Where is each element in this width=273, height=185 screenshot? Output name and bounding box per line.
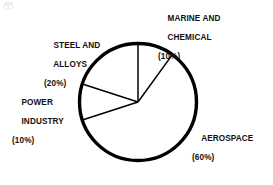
slice-label-aerospace: AEROSPACE (60%) [192,124,253,182]
slice-label-power-industry: POWER INDUSTRY (10%) [12,88,64,165]
slice-label-line1: MARINE AND [168,14,221,23]
slice-label-line1: POWER [22,98,53,107]
slice-label-line2: INDUSTRY [22,117,64,126]
slice-label-line2: CHEMICAL [168,33,212,42]
slice-label-line1: STEEL AND [54,41,101,50]
slice-label-percent: (10%) [158,52,221,62]
slice-label-line2: ALLOYS [53,60,87,69]
slice-label-percent: (10%) [12,136,64,146]
slice-label-percent: (60%) [192,153,253,163]
pie-chart-figure: MARINE AND CHEMICAL (10%) STEEL AND ALLO… [0,0,273,185]
scan-artifact-icon [3,2,14,11]
slice-label-line1: AEROSPACE [201,134,253,143]
slice-label-marine-and-chemical: MARINE AND CHEMICAL (10%) [158,4,221,81]
